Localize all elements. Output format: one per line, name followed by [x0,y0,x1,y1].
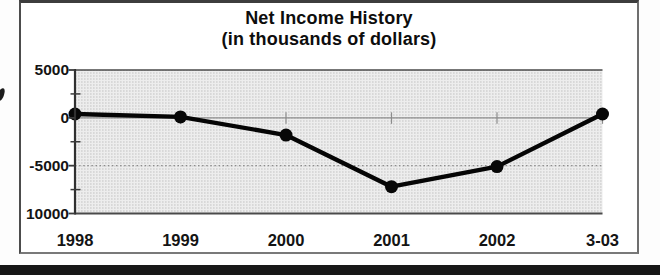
x-axis-label: 2001 [373,231,410,249]
y-axis-label: -5000 [29,157,69,175]
x-axis-label: 3-03 [586,231,619,249]
net-income-line-chart [0,0,660,275]
y-axis-label: 0 [60,109,69,127]
data-point-marker [385,180,398,193]
page-edge-bar [0,265,660,275]
data-point-marker [280,129,293,142]
plot-area [75,70,603,214]
scanned-page: Net Income History (in thousands of doll… [0,0,660,275]
y-axis-label: 10000 [26,205,69,223]
x-axis-label: 2000 [268,231,305,249]
y-axis-label: 5000 [35,61,69,79]
x-axis-label: 1999 [162,231,199,249]
data-point-marker [174,110,187,123]
x-axis-label: 1998 [57,231,94,249]
data-point-marker [491,160,504,173]
x-axis-label: 2002 [479,231,516,249]
data-point-marker [596,108,609,121]
